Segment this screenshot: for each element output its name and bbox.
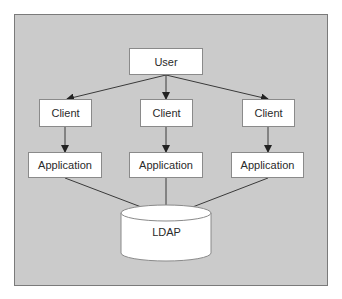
connector-lines: [0, 0, 342, 299]
client-node-label: Client: [254, 107, 282, 119]
ldap-label: LDAP: [121, 226, 212, 238]
application-node-left: Application: [28, 152, 102, 178]
application-node-label: Application: [38, 159, 92, 171]
application-node-right: Application: [231, 152, 304, 178]
application-node-label: Application: [241, 159, 295, 171]
client-node-left: Client: [39, 99, 92, 127]
application-node-label: Application: [139, 159, 193, 171]
client-node-label: Client: [51, 107, 79, 119]
user-node-label: User: [154, 56, 177, 68]
client-node-middle: Client: [140, 99, 193, 127]
user-node: User: [129, 48, 203, 75]
edge-user-client-left: [67, 75, 166, 99]
client-node-right: Client: [242, 99, 295, 127]
application-node-middle: Application: [129, 152, 203, 178]
client-node-label: Client: [152, 107, 180, 119]
edge-user-client-right: [166, 75, 268, 99]
